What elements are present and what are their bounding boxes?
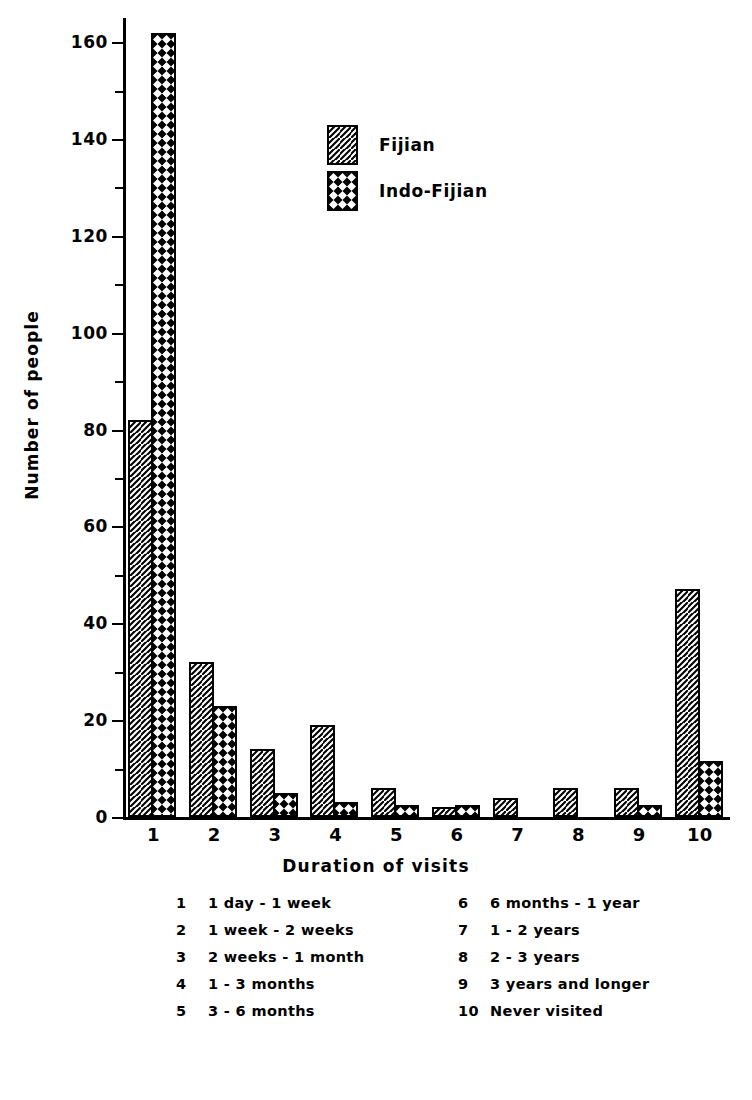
y-tick-minor [115, 91, 123, 93]
key-number: 9 [458, 976, 490, 992]
key-row: 41 - 3 months [176, 976, 414, 1003]
y-tick-label: 40 [83, 613, 108, 633]
key-row: 10Never visited [458, 1003, 696, 1030]
x-axis-title: Duration of visits [0, 856, 752, 876]
bar-fijian [553, 788, 578, 817]
key-row: 93 years and longer [458, 976, 696, 1003]
bar-group [553, 788, 603, 817]
y-tick-major [112, 526, 123, 528]
x-tick-label: 7 [511, 824, 524, 845]
y-tick-minor [115, 381, 123, 383]
bar-group [493, 798, 543, 817]
x-tick-label: 10 [687, 824, 712, 845]
bar-group [614, 788, 664, 817]
bar-indo-fijian [273, 793, 298, 817]
bar-group [250, 749, 300, 817]
y-tick-label: 60 [83, 516, 108, 536]
bar-fijian [432, 807, 457, 817]
y-tick-label: 20 [83, 710, 108, 730]
bar-fijian [675, 589, 700, 817]
series-legend: FijianIndo-Fijian [327, 122, 488, 214]
key-number: 10 [458, 1003, 490, 1019]
legend-swatch-fijian [327, 125, 358, 165]
y-tick-minor [115, 187, 123, 189]
y-tick-label: 120 [71, 226, 108, 246]
y-tick-minor [115, 672, 123, 674]
key-number: 1 [176, 895, 208, 911]
bar-group [371, 788, 421, 817]
bar-indo-fijian [698, 761, 723, 817]
y-tick-label: 160 [71, 32, 108, 52]
bar-fijian [493, 798, 518, 817]
key-row: 11 day - 1 week [176, 895, 414, 922]
key-row: 82 - 3 years [458, 949, 696, 976]
key-description: 3 years and longer [490, 976, 650, 992]
key-description: 3 - 6 months [208, 1003, 315, 1019]
key-number: 5 [176, 1003, 208, 1019]
x-tick-label: 2 [208, 824, 221, 845]
y-tick-major [112, 333, 123, 335]
y-tick-minor [115, 575, 123, 577]
bar-indo-fijian [212, 706, 237, 817]
x-tick-label: 8 [572, 824, 585, 845]
key-row: 66 months - 1 year [458, 895, 696, 922]
x-tick-label: 5 [390, 824, 403, 845]
x-tick-label: 9 [633, 824, 646, 845]
key-description: 1 day - 1 week [208, 895, 331, 911]
key-description: 6 months - 1 year [490, 895, 640, 911]
key-number: 2 [176, 922, 208, 938]
bar-fijian [189, 662, 214, 817]
y-tick-major [112, 236, 123, 238]
key-number: 6 [458, 895, 490, 911]
y-tick-major [112, 139, 123, 141]
key-description: 1 - 3 months [208, 976, 315, 992]
key-column: 11 day - 1 week21 week - 2 weeks32 weeks… [176, 895, 414, 1030]
x-tick-label: 1 [147, 824, 160, 845]
y-tick-major [112, 42, 123, 44]
y-tick-minor [115, 284, 123, 286]
category-key-table: 11 day - 1 week21 week - 2 weeks32 weeks… [176, 895, 696, 1030]
key-description: 2 - 3 years [490, 949, 580, 965]
y-tick-major [112, 720, 123, 722]
bar-group [128, 33, 178, 817]
bar-group [675, 589, 725, 817]
x-tick-label: 4 [329, 824, 342, 845]
bar-fijian [614, 788, 639, 817]
bar-fijian [128, 420, 153, 817]
bar-fijian [250, 749, 275, 817]
x-tick-label: 6 [451, 824, 464, 845]
key-number: 3 [176, 949, 208, 965]
bar-fijian [371, 788, 396, 817]
key-description: 2 weeks - 1 month [208, 949, 364, 965]
legend-label: Fijian [379, 135, 435, 155]
bar-indo-fijian [333, 802, 358, 817]
y-tick-major [112, 817, 123, 819]
y-axis-title: Number of people [22, 285, 42, 525]
bar-group [189, 662, 239, 817]
bar-indo-fijian [637, 805, 662, 817]
key-description: Never visited [490, 1003, 603, 1019]
legend-label: Indo-Fijian [379, 181, 488, 201]
key-description: 1 week - 2 weeks [208, 922, 354, 938]
bar-indo-fijian [394, 805, 419, 817]
y-tick-label: 0 [96, 807, 108, 827]
legend-item-fijian: Fijian [327, 122, 488, 168]
y-tick-label: 100 [71, 322, 108, 342]
key-row: 32 weeks - 1 month [176, 949, 414, 976]
y-tick-major [112, 623, 123, 625]
bar-indo-fijian [151, 33, 176, 817]
key-number: 7 [458, 922, 490, 938]
bar-chart: Number of people 020406080100120140160 1… [0, 0, 752, 1100]
y-tick-minor [115, 769, 123, 771]
y-tick-minor [115, 478, 123, 480]
y-tick-major [112, 430, 123, 432]
key-row: 53 - 6 months [176, 1003, 414, 1030]
key-row: 71 - 2 years [458, 922, 696, 949]
key-column: 66 months - 1 year71 - 2 years82 - 3 yea… [458, 895, 696, 1030]
y-tick-label: 140 [71, 129, 108, 149]
legend-item-indo-fijian: Indo-Fijian [327, 168, 488, 214]
key-number: 8 [458, 949, 490, 965]
key-row: 21 week - 2 weeks [176, 922, 414, 949]
bar-indo-fijian [455, 805, 480, 817]
key-number: 4 [176, 976, 208, 992]
